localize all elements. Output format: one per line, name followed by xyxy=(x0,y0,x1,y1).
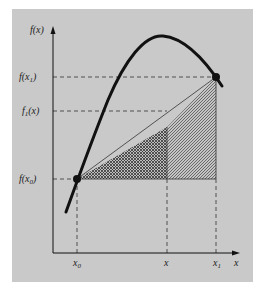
figure-panel xyxy=(12,9,253,282)
y-axis-label: f(x) xyxy=(30,24,45,36)
x-axis-label: x xyxy=(233,257,239,268)
point-x1-fx1 xyxy=(212,73,220,81)
point-x0-fx0 xyxy=(73,175,81,183)
linear-interpolation-diagram: f(x) f(x1) f1(x) f(x0) x0 x x1 x xyxy=(0,0,269,291)
x-tick-x: x xyxy=(163,257,169,268)
